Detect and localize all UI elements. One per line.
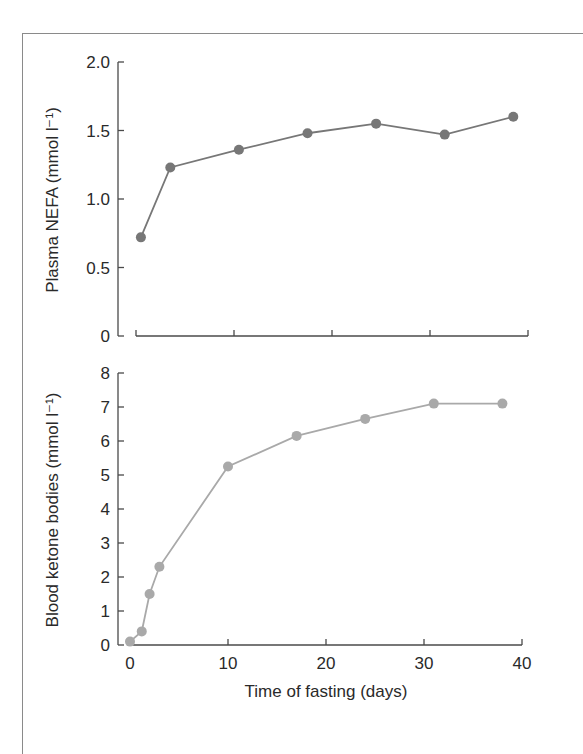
y-tick-label: 1.5 [86,122,110,141]
y-tick-label: 4 [101,500,110,519]
data-point-marker [234,145,244,155]
data-point-marker [440,130,450,140]
x-tick-label: 20 [317,654,336,673]
x-tick-label: 0 [125,654,134,673]
y-tick-label: 1.0 [86,190,110,209]
y-tick-label: 2.0 [86,53,110,72]
data-point-marker [360,414,370,424]
x-axis-title: Time of fasting (days) [245,682,408,701]
data-point-marker [303,128,313,138]
y-tick-label: 6 [101,432,110,451]
y-tick-label: 7 [101,398,110,417]
y-tick-label: 1 [101,602,110,621]
data-point-marker [136,232,146,242]
data-point-marker [137,626,147,636]
data-point-marker [429,399,439,409]
data-point-marker [165,162,175,172]
data-point-marker [371,119,381,129]
y-tick-label: 0.5 [86,259,110,278]
y-axis-title: Plasma NEFA (mmol l⁻¹) [43,107,62,293]
y-tick-label: 8 [101,364,110,383]
y-axis-title: Blood ketone bodies (mmol l⁻¹) [43,393,62,628]
x-tick-label: 10 [219,654,238,673]
y-tick-label: 2 [101,568,110,587]
data-point-marker [497,399,507,409]
data-line [141,117,513,238]
data-point-marker [125,637,135,647]
data-point-marker [292,431,302,441]
data-point-marker [154,562,164,572]
data-point-marker [508,112,518,122]
data-point-marker [223,462,233,472]
data-line [130,404,502,642]
ketone-panel: 012345678010203040Blood ketone bodies (m… [43,364,531,701]
y-tick-label: 0 [101,327,110,346]
x-tick-label: 40 [513,654,532,673]
y-tick-label: 5 [101,466,110,485]
y-tick-label: 3 [101,534,110,553]
nefa-panel: 00.51.01.52.0Plasma NEFA (mmol l⁻¹) [43,53,528,346]
y-tick-label: 0 [101,636,110,655]
data-point-marker [145,589,155,599]
x-tick-label: 30 [415,654,434,673]
